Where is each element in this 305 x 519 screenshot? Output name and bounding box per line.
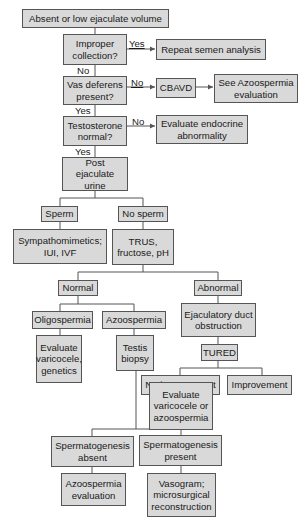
node-testis-biopsy: Testis biopsy [116, 335, 154, 371]
node-azoospermia-evaluation: Azoospermia evaluation [61, 473, 126, 506]
flowchart: Absent or low ejaculate volume Improper … [0, 0, 305, 519]
edge-label-testosterone-no: No [132, 117, 144, 127]
edge-label-improper-yes: Yes [129, 39, 145, 49]
node-testosterone-normal: Testosterone normal? [63, 116, 127, 146]
node-azoospermia: Azoospermia [102, 311, 166, 329]
node-improvement: Improvement [227, 375, 292, 395]
edge-label-vas-yes: Yes [75, 106, 91, 116]
node-vasogram-microsurgical: Vasogram; microsurgical reconstruction [147, 473, 216, 517]
node-sperm: Sperm [41, 206, 78, 222]
node-evaluate-varicocele-genetics: Evaluate varicocele, genetics [36, 335, 82, 383]
node-spermatogenesis-present: Spermatogenesis present [139, 435, 222, 466]
edge-label-vas-no: No [131, 78, 143, 88]
node-ejaculatory-duct-obstruction: Ejaculatory duct obstruction [181, 303, 256, 337]
node-cbavd: CBAVD [156, 78, 196, 98]
node-improper-collection: Improper collection? [63, 34, 127, 65]
edge-label-testosterone-yes: Yes [75, 147, 91, 157]
edge-label-improper-no: No [77, 66, 89, 76]
node-tured: TURED [201, 344, 238, 361]
node-evaluate-varicocele-azoospermia: Evaluate varicocele or azoospermia [149, 382, 213, 430]
node-trus: TRUS, fructose, pH [112, 229, 174, 265]
node-vas-deferens-present: Vas deferens present? [63, 76, 127, 105]
node-abnormal: Abnormal [194, 280, 242, 296]
node-spermatogenesis-absent: Spermatogenesis absent [51, 436, 134, 467]
node-no-sperm: No sperm [118, 206, 168, 222]
node-absent-low-volume: Absent or low ejaculate volume [22, 9, 169, 28]
node-post-ejaculate-urine: Post ejaculate urine [62, 157, 128, 191]
node-see-azoospermia-evaluation: See Azoospermia evaluation [214, 74, 298, 103]
node-normal: Normal [58, 280, 98, 296]
node-oligospermia: Oligospermia [32, 311, 93, 329]
node-sympathomimetics: Sympathomimetics; IUI, IVF [13, 229, 107, 264]
node-evaluate-endocrine: Evaluate endocrine abnormality [156, 115, 248, 144]
node-repeat-semen-analysis: Repeat semen analysis [156, 39, 266, 60]
